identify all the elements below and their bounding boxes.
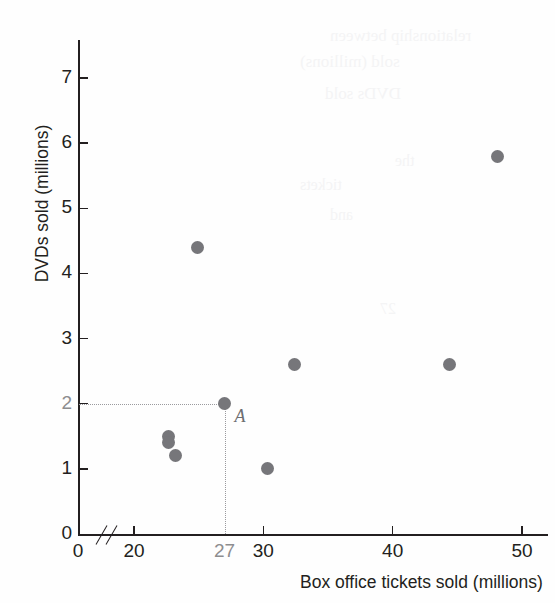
scatter-plot-figure: relationship betweensold (millions)DVDs … <box>0 0 555 603</box>
y-axis-title: DVDs sold (millions) <box>32 89 53 319</box>
y-tick-mark-7 <box>79 77 88 79</box>
data-point-8 <box>491 150 504 163</box>
x-tick-mark-30 <box>263 526 265 535</box>
y-tick-mark-6 <box>79 142 88 144</box>
x-tick-label-20: 20 <box>114 540 154 562</box>
y-tick-mark-1 <box>79 468 88 470</box>
x-tick-mark-50 <box>521 526 523 535</box>
data-point-2 <box>169 449 182 462</box>
x-tick-label-0: 0 <box>58 540 98 562</box>
point-A-label: A <box>235 406 246 427</box>
x-axis-title: Box office tickets sold (millions) <box>300 572 543 593</box>
data-point-5 <box>261 462 274 475</box>
y-tick-mark-3 <box>79 338 88 340</box>
y-axis-line <box>78 40 80 536</box>
data-point-1 <box>162 436 175 449</box>
x-tick-label-50: 50 <box>502 540 542 562</box>
x-tick-label-30: 30 <box>243 540 283 562</box>
data-point-7 <box>443 358 456 371</box>
data-point-A <box>218 397 231 410</box>
y-tick-label-1: 1 <box>42 457 72 479</box>
x-axis-line <box>78 534 548 536</box>
guide-vertical <box>225 404 226 534</box>
y-tick-label-7: 7 <box>42 66 72 88</box>
x-tick-mark-40 <box>392 526 394 535</box>
guide-horizontal <box>79 404 225 405</box>
data-point-3 <box>191 241 204 254</box>
y-tick-mark-4 <box>79 273 88 275</box>
plot-area: 01234567 02027304050 A DVDs sold (millio… <box>0 0 555 603</box>
data-point-6 <box>288 358 301 371</box>
y-tick-label-2: 2 <box>42 392 72 414</box>
x-tick-mark-20 <box>133 526 135 535</box>
x-tick-label-40: 40 <box>373 540 413 562</box>
x-tick-label-27: 27 <box>205 540 245 562</box>
y-tick-mark-5 <box>79 208 88 210</box>
y-tick-label-3: 3 <box>42 327 72 349</box>
